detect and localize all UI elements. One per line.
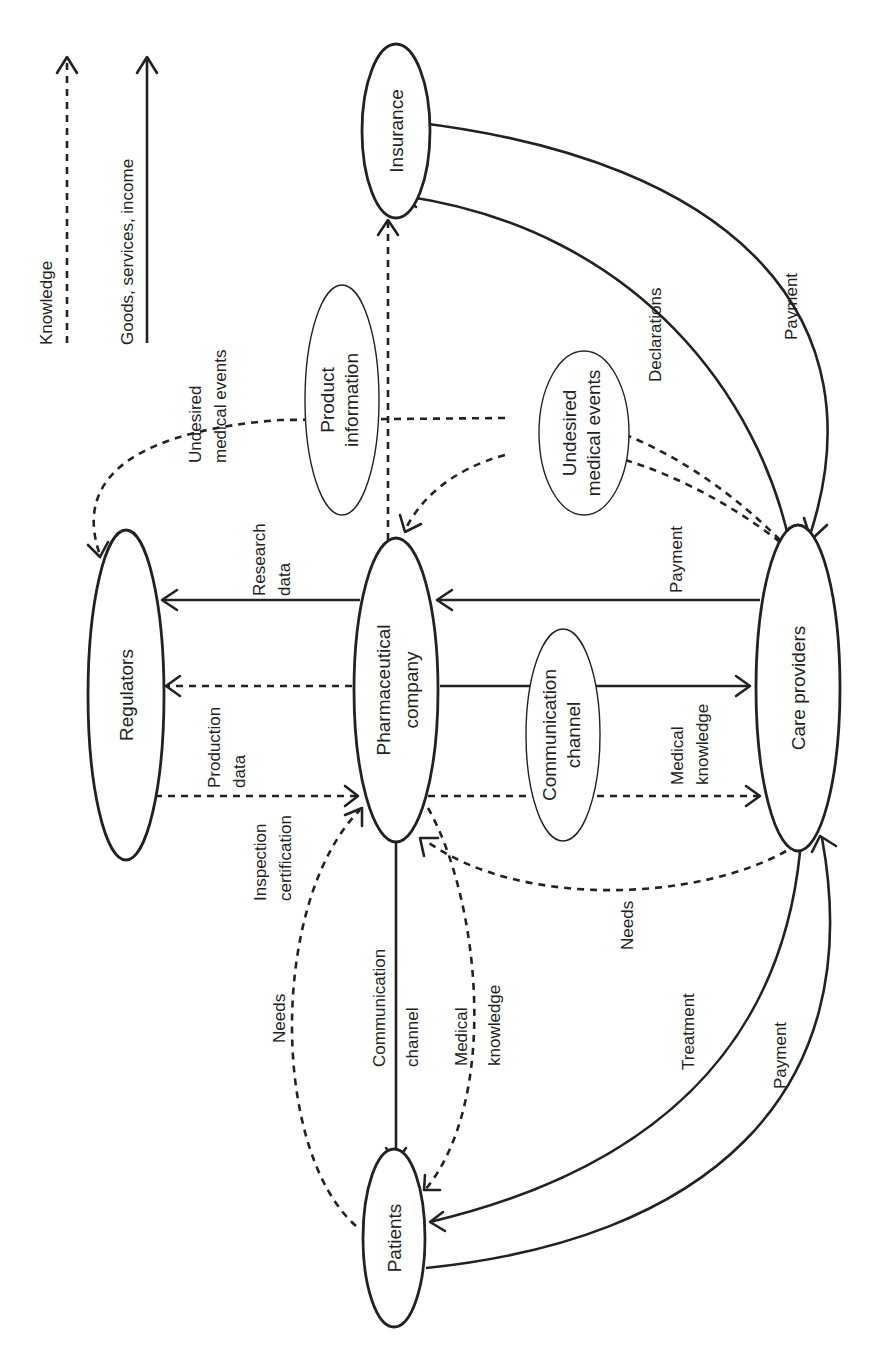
label-treatment: Treatment	[679, 993, 698, 1070]
edge-ume-to-regulators	[94, 418, 505, 555]
label-payment-insurance: Payment	[782, 273, 801, 340]
label-medknow-patients-line2: knowledge	[485, 985, 504, 1066]
node-pharma-label-line2: company	[401, 651, 422, 729]
label-needs-patients: Needs	[270, 994, 289, 1043]
label-inspection-line1: Inspection	[251, 824, 270, 902]
node-insurance-label: Insurance	[386, 89, 407, 172]
node-product-information: Product information	[305, 285, 379, 515]
node-ume-line1: Undesired	[559, 390, 580, 477]
legend-goods-label: Goods, services, income	[118, 159, 137, 345]
label-medknow-care-line1: Medical	[668, 726, 687, 785]
label-production-data-line1: Production	[205, 707, 224, 788]
label-declarations: Declarations	[646, 288, 665, 383]
node-product-info-line1: Product	[317, 367, 338, 433]
label-research-data-line2: data	[275, 562, 294, 596]
label-medknow-patients-line1: Medical	[452, 1007, 471, 1066]
label-payment-patients: Payment	[771, 1022, 790, 1089]
node-pharmaceutical-company: Pharmaceutical company	[354, 538, 438, 842]
label-comm-patients-line1: Communication	[370, 949, 389, 1067]
label-needs-care: Needs	[618, 901, 637, 950]
node-ume-line2: medical events	[583, 370, 604, 497]
node-care-providers-label: Care providers	[788, 626, 809, 751]
legend-knowledge-label: Knowledge	[37, 261, 56, 345]
label-inspection-line2: certification	[276, 815, 295, 901]
edge-needs-patients-to-pharma	[292, 810, 360, 1226]
node-communication-channel: Communication channel	[526, 629, 600, 841]
arrowhead-icon	[400, 515, 421, 532]
label-ume-regulators-line2: medical events	[211, 350, 230, 463]
edge-medknow-pharma-to-patients	[425, 808, 474, 1190]
edge-needs-care-to-pharma	[425, 840, 786, 890]
node-patients: Patients	[363, 1149, 425, 1327]
node-care-providers: Care providers	[756, 525, 840, 851]
node-comm-channel-line2: channel	[563, 702, 584, 769]
label-comm-patients-line2: channel	[403, 1007, 422, 1067]
label-research-data-line1: Research	[250, 523, 269, 596]
node-product-info-line2: information	[341, 353, 362, 447]
node-insurance: Insurance	[362, 44, 430, 218]
edge-ume-to-pharma	[405, 455, 505, 530]
label-production-data-line2: data	[230, 754, 249, 788]
legend: Knowledge Goods, services, income	[37, 57, 157, 345]
node-regulators: Regulators	[88, 530, 164, 860]
node-comm-channel-line1: Communication	[539, 669, 560, 801]
label-payment-care-to-pharma: Payment	[667, 526, 686, 593]
node-pharma-label-line1: Pharmaceutical	[373, 625, 394, 756]
label-ume-regulators-line1: Undesired	[186, 386, 205, 464]
value-network-diagram: Knowledge Goods, services, income	[0, 0, 879, 1362]
node-patients-label: Patients	[384, 1204, 405, 1273]
node-undesired-medical-events: Undesired medical events	[539, 351, 629, 515]
label-medknow-care-line2: knowledge	[693, 704, 712, 785]
node-regulators-label: Regulators	[116, 649, 137, 741]
